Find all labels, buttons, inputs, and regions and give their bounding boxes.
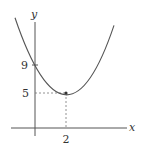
x-axis-label: x — [129, 121, 136, 134]
y-tick-label-9: 9 — [21, 59, 28, 72]
vertex-point — [64, 91, 67, 94]
parabola-curve — [15, 18, 114, 95]
x-tick-label-2: 2 — [63, 133, 70, 146]
parabola-diagram: y x 9 5 2 — [0, 0, 142, 150]
y-axis-label: y — [30, 8, 38, 21]
y-tick-label-5: 5 — [22, 87, 29, 100]
